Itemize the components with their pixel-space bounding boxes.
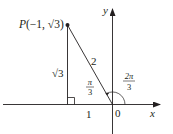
origin-label: 0 xyxy=(115,107,121,119)
vertical-side-label: √3 xyxy=(52,67,64,79)
point-label: P(−1, √3) xyxy=(18,18,64,31)
svg-text:π: π xyxy=(88,77,93,87)
point-p xyxy=(66,23,70,27)
right-angle-marker xyxy=(68,98,75,105)
hypotenuse-label: 2 xyxy=(91,55,97,67)
svg-text:3: 3 xyxy=(127,82,131,92)
diagram-canvas: P(−1, √3) y x 0 2 √3 1 π 3 2π 3 xyxy=(0,0,173,134)
svg-text:2π: 2π xyxy=(125,71,134,81)
x-axis-label: x xyxy=(149,107,155,119)
y-axis-label: y xyxy=(102,4,108,16)
svg-text:3: 3 xyxy=(88,87,92,97)
angle-outer-label: 2π 3 xyxy=(123,71,135,92)
angle-inner-label: π 3 xyxy=(86,77,94,97)
horizontal-side-label: 1 xyxy=(86,108,92,120)
arc-arrowhead-icon xyxy=(105,93,109,96)
